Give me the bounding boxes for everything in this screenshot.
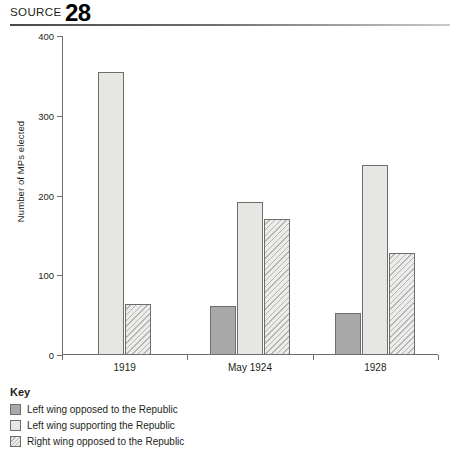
bar-1919-hatch <box>125 304 151 355</box>
legend-swatch-hatch <box>10 436 21 447</box>
legend: Key Left wing opposed to the RepublicLef… <box>10 386 310 450</box>
source-label: SOURCE <box>10 6 62 18</box>
bar-may-1924-dark <box>210 306 236 355</box>
legend-swatch-light <box>10 420 21 431</box>
legend-item-label: Left wing supporting the Republic <box>27 420 175 431</box>
y-axis-tick-label: 0 <box>49 350 54 361</box>
legend-title: Key <box>10 386 310 398</box>
y-axis-tick-label: 100 <box>38 270 54 281</box>
y-axis-tick <box>57 36 62 37</box>
x-axis-tick <box>187 355 188 360</box>
legend-item-label: Left wing opposed to the Republic <box>27 404 178 415</box>
y-axis-tick <box>57 196 62 197</box>
legend-swatch-dark <box>10 404 21 415</box>
x-axis-tick <box>62 355 63 360</box>
legend-item: Right wing opposed to the Republic <box>10 434 310 449</box>
bar-1919-light <box>98 72 124 355</box>
bar-1928-dark <box>335 313 361 355</box>
y-axis-title: Number of MPs elected <box>15 112 26 232</box>
y-axis-line <box>62 36 63 355</box>
plot-area: 01002003004001919May 19241928 <box>62 36 438 355</box>
y-axis-tick <box>57 116 62 117</box>
x-axis-label-1928: 1928 <box>364 362 386 373</box>
source-number: 28 <box>65 0 91 27</box>
legend-item: Left wing supporting the Republic <box>10 418 310 433</box>
legend-item: Left wing opposed to the Republic <box>10 402 310 417</box>
bar-may-1924-hatch <box>264 219 290 355</box>
bar-1928-light <box>362 165 388 355</box>
y-axis-tick-label: 400 <box>38 31 54 42</box>
legend-item-label: Right wing opposed to the Republic <box>27 436 184 447</box>
y-axis-tick-label: 300 <box>38 110 54 121</box>
y-axis-tick <box>57 275 62 276</box>
x-axis-tick <box>313 355 314 360</box>
x-axis-label-may-1924: May 1924 <box>228 362 272 373</box>
bar-1928-hatch <box>389 253 415 355</box>
bar-may-1924-light <box>237 202 263 355</box>
bar-chart: Number of MPs elected 01002003004001919M… <box>0 28 450 380</box>
y-axis-tick-label: 200 <box>38 190 54 201</box>
source-header: SOURCE 28 <box>8 2 450 28</box>
header-divider <box>10 24 450 26</box>
x-axis-tick <box>438 355 439 360</box>
x-axis-label-1919: 1919 <box>114 362 136 373</box>
